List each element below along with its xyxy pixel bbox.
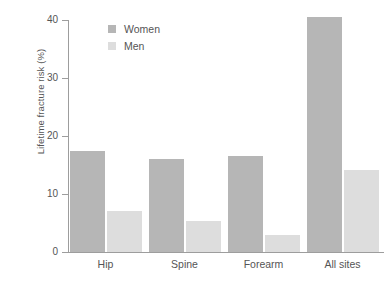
chart-legend: Women Men [108,22,160,56]
y-axis-tick-label: 40 [18,15,58,25]
legend-item-men[interactable]: Men [108,39,160,53]
x-axis-label-all-sites: All sites [324,258,360,270]
y-axis-tick-label: 30 [18,73,58,83]
x-axis-label-forearm: Forearm [244,258,284,270]
bar-women-spine [149,159,184,252]
legend-label-women: Women [124,23,160,35]
bar-women-forearm [228,156,263,252]
legend-swatch-women-icon [108,25,116,33]
bar-men-forearm [265,235,300,252]
legend-swatch-men-icon [108,42,116,50]
y-axis-tick [62,252,69,253]
bar-women-all-sites [307,17,342,252]
bar-men-spine [186,221,221,252]
y-axis-tick-label: 0 [18,247,58,257]
bar-women-hip [70,151,105,253]
bar-men-hip [107,211,142,252]
bar-men-all-sites [344,170,379,252]
y-axis-tick-label: 20 [18,131,58,141]
y-axis-tick-label: 10 [18,189,58,199]
legend-item-women[interactable]: Women [108,22,160,36]
fracture-risk-bar-chart: Lifetime fracture risk (%) 010203040 Hip… [0,0,392,288]
y-axis-title: Lifetime fracture risk (%) [35,22,46,182]
x-axis-label-spine: Spine [171,258,198,270]
x-axis-line [68,252,384,253]
legend-label-men: Men [124,40,144,52]
x-axis-label-hip: Hip [98,258,114,270]
